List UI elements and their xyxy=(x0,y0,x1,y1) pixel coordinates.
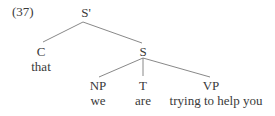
node-np: NP xyxy=(90,79,107,92)
word-we: we xyxy=(90,94,105,107)
edge-sbar-c xyxy=(43,22,83,42)
word-are: are xyxy=(135,94,151,107)
edge-s-np xyxy=(99,58,143,77)
node-vp: VP xyxy=(203,79,220,92)
example-number: (37) xyxy=(12,5,34,18)
node-s: S xyxy=(139,45,146,58)
node-sbar: S' xyxy=(81,6,91,19)
node-t: T xyxy=(139,79,147,92)
edge-sbar-s xyxy=(83,22,142,43)
edge-s-vp xyxy=(143,58,210,77)
word-that: that xyxy=(31,60,51,73)
node-c: C xyxy=(37,45,46,58)
word-vp-phrase: trying to help you xyxy=(170,94,263,107)
